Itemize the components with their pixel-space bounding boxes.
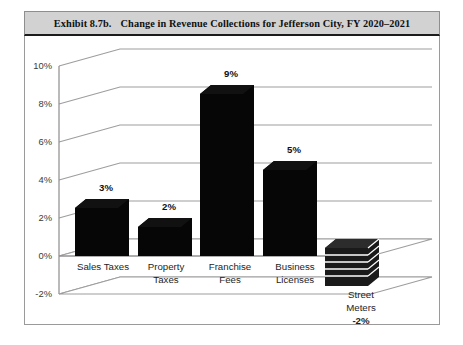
category-line-1: Sales Taxes xyxy=(77,261,129,272)
y-tick-label-0: 0% xyxy=(18,250,52,261)
gridline-10 xyxy=(59,49,432,66)
y-tick-label-6: 6% xyxy=(18,136,52,147)
bar-business-licenses xyxy=(263,161,317,256)
chart-plot-area: 10% 8% 6% 4% 2% 0% -2% 3% 2% 9% 5% Sales… xyxy=(24,36,440,325)
bar-sales-taxes xyxy=(75,199,129,256)
category-line-2: Meters xyxy=(324,301,398,314)
category-line-2: Taxes xyxy=(130,273,202,286)
y-tick-label-2: 2% xyxy=(18,212,52,223)
category-line-1: Franchise xyxy=(209,261,252,272)
category-line-1: Street xyxy=(348,289,374,300)
y-tick-label-4: 4% xyxy=(18,174,52,185)
category-line-1: Property xyxy=(148,261,185,272)
value-label-property-taxes: 2% xyxy=(141,201,197,212)
category-line-1: Business xyxy=(275,261,314,272)
exhibit-title-bar: Exhibit 8.7b.Change in Revenue Collectio… xyxy=(24,11,440,36)
value-label-franchise-fees: 9% xyxy=(203,68,259,79)
bar-franchise-fees xyxy=(200,85,254,256)
exhibit-title-text: Change in Revenue Collections for Jeffer… xyxy=(121,18,411,29)
value-label-street-meters: -2% xyxy=(324,314,398,327)
exhibit-title: Exhibit 8.7b.Change in Revenue Collectio… xyxy=(54,18,410,29)
value-label-sales-taxes: 3% xyxy=(78,182,134,193)
exhibit-figure: Exhibit 8.7b.Change in Revenue Collectio… xyxy=(0,0,463,345)
category-label-street-meters: Street Meters -2% xyxy=(324,288,398,327)
category-label-business-licenses: Business Licenses xyxy=(256,260,334,286)
y-tick-label-8: 8% xyxy=(18,98,52,109)
y-tick-label-minus2: -2% xyxy=(18,288,52,299)
y-tick-label-10: 10% xyxy=(18,60,52,71)
category-line-2: Licenses xyxy=(256,273,334,286)
category-label-property-taxes: Property Taxes xyxy=(130,260,202,286)
exhibit-number: Exhibit 8.7b. xyxy=(54,18,112,29)
bar-property-taxes xyxy=(138,218,192,256)
value-label-business-licenses: 5% xyxy=(266,144,322,155)
